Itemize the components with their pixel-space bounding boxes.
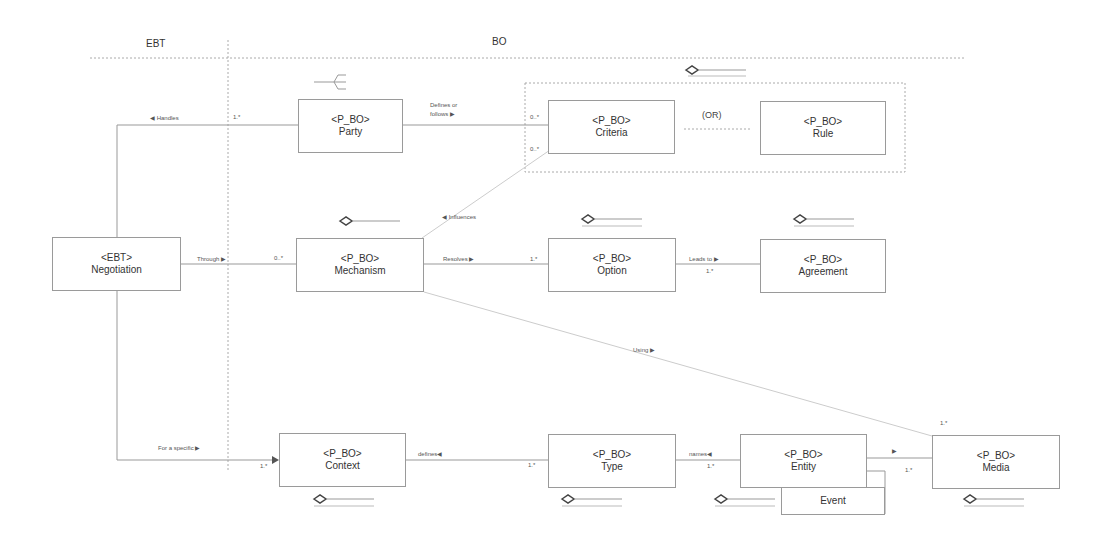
stereotype: <P_BO> bbox=[804, 116, 842, 128]
assoc-resolves-label: Resolves ▶ bbox=[443, 255, 474, 262]
class-context[interactable]: <P_BO> Context bbox=[279, 433, 406, 487]
aggregation-diamond-icon bbox=[580, 213, 644, 229]
class-media[interactable]: <P_BO> Media bbox=[932, 435, 1060, 489]
stereotype: <EBT> bbox=[101, 252, 132, 264]
stereotype: <P_BO> bbox=[592, 115, 630, 127]
class-name: Media bbox=[982, 462, 1009, 474]
assoc-through-mult: 0..* bbox=[274, 255, 283, 261]
assoc-defines-label-2: follows ▶ bbox=[430, 110, 455, 117]
swimlane-bo-label: BO bbox=[492, 36, 506, 47]
assoc-names-mult: 1.* bbox=[707, 463, 714, 469]
assoc-defines-mult: 0..* bbox=[530, 114, 539, 120]
class-name: Rule bbox=[813, 128, 834, 140]
class-type[interactable]: <P_BO> Type bbox=[548, 434, 676, 488]
aggregation-diamond-icon bbox=[713, 493, 777, 509]
class-name: Negotiation bbox=[91, 264, 142, 276]
aggregation-diamond-icon bbox=[684, 64, 748, 78]
assoc-handles-mult: 1.* bbox=[233, 114, 240, 120]
class-party[interactable]: <P_BO> Party bbox=[298, 99, 403, 153]
class-negotiation[interactable]: <EBT> Negotiation bbox=[52, 237, 181, 291]
stereotype: <P_BO> bbox=[593, 449, 631, 461]
class-name: Criteria bbox=[595, 127, 627, 139]
assoc-handles-label: ◀ Handles bbox=[150, 114, 179, 121]
assoc-for-specific-label: For a specific ▶ bbox=[158, 444, 200, 451]
class-name: Context bbox=[325, 460, 359, 472]
class-mechanism[interactable]: <P_BO> Mechanism bbox=[296, 238, 424, 292]
stereotype: <P_BO> bbox=[341, 253, 379, 265]
stereotype: <P_BO> bbox=[804, 254, 842, 266]
assoc-using-label: Using ▶ bbox=[633, 346, 655, 353]
assoc-names-label: names◀ bbox=[689, 450, 712, 457]
fork-icon bbox=[314, 72, 350, 92]
assoc-using-mult: 1.* bbox=[940, 420, 947, 426]
aggregation-diamond-icon bbox=[338, 215, 402, 229]
class-agreement[interactable]: <P_BO> Agreement bbox=[760, 239, 886, 293]
class-name: Agreement bbox=[799, 266, 848, 278]
or-constraint: (OR) bbox=[702, 110, 722, 120]
swimlane-ebt-label: EBT bbox=[146, 38, 165, 49]
class-event[interactable]: Event bbox=[781, 487, 885, 515]
class-name: Event bbox=[820, 495, 846, 507]
stereotype: <P_BO> bbox=[323, 448, 361, 460]
assoc-entity-media-mult: 1.* bbox=[905, 467, 912, 473]
stereotype: <P_BO> bbox=[593, 253, 631, 265]
stereotype: <P_BO> bbox=[784, 449, 822, 461]
assoc-entity-media-label: ▶ bbox=[892, 447, 897, 454]
assoc-for-specific-mult: 1.* bbox=[260, 463, 267, 469]
assoc-defines-ctx-mult: 1.* bbox=[528, 462, 535, 468]
aggregation-diamond-icon bbox=[792, 213, 856, 229]
stereotype: <P_BO> bbox=[331, 114, 369, 126]
assoc-influences-label: ◀ Influences bbox=[442, 213, 476, 220]
class-name: Entity bbox=[791, 461, 816, 473]
aggregation-diamond-icon bbox=[312, 493, 376, 509]
class-option[interactable]: <P_BO> Option bbox=[548, 238, 676, 292]
stereotype: <P_BO> bbox=[977, 450, 1015, 462]
assoc-leads-to-mult: 1.* bbox=[706, 268, 713, 274]
assoc-leads-to-label: Leads to ▶ bbox=[689, 255, 719, 262]
class-criteria[interactable]: <P_BO> Criteria bbox=[548, 100, 675, 154]
assoc-resolves-mult: 1.* bbox=[530, 256, 537, 262]
assoc-through-label: Through ▶ bbox=[197, 255, 226, 262]
class-rule[interactable]: <P_BO> Rule bbox=[760, 101, 886, 155]
assoc-influences-mult: 0..* bbox=[530, 146, 539, 152]
class-name: Type bbox=[601, 461, 623, 473]
class-name: Mechanism bbox=[334, 265, 385, 277]
assoc-defines-label-1: Defines or bbox=[430, 102, 457, 108]
aggregation-diamond-icon bbox=[560, 493, 624, 509]
class-name: Party bbox=[339, 126, 362, 138]
class-entity[interactable]: <P_BO> Entity bbox=[740, 434, 867, 488]
class-name: Option bbox=[597, 265, 626, 277]
aggregation-diamond-icon bbox=[962, 493, 1026, 509]
assoc-defines-ctx-label: defines◀ bbox=[418, 450, 442, 457]
